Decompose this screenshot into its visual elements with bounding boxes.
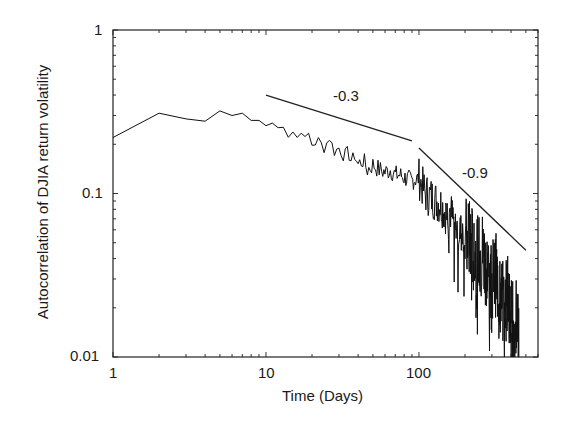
annotation-slope-minus-0-3: -0.3	[333, 87, 359, 104]
x-axis-label: Time (Days)	[282, 387, 363, 404]
series-line	[113, 111, 519, 357]
plot-frame	[113, 30, 538, 357]
y-tick-label-0-01: 0.01	[70, 347, 99, 364]
axis-ticks	[113, 30, 538, 357]
x-tick-label-100: 100	[406, 364, 431, 381]
x-tick-label-1: 1	[109, 364, 117, 381]
x-tick-label-10: 10	[258, 364, 275, 381]
y-axis-label: Autocorrelation of DJIA return volatilit…	[34, 65, 51, 319]
annotation-slope-minus-0-9: -0.9	[462, 164, 488, 181]
y-tick-label-1: 1	[94, 21, 102, 38]
y-tick-label-0-1: 0.1	[82, 184, 103, 201]
